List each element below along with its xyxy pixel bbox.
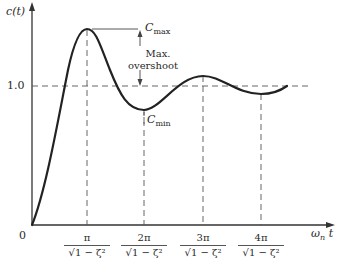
reference-level-label: 1.0 bbox=[7, 80, 25, 91]
y-axis-arrow-icon bbox=[29, 2, 35, 11]
arrow-up-icon bbox=[138, 30, 143, 37]
y-axis-label: c(t) bbox=[6, 6, 25, 17]
x-axis-label: ωn t bbox=[311, 228, 333, 242]
cmin-label: Cmin bbox=[147, 114, 171, 128]
arrow-down-icon bbox=[138, 79, 143, 86]
overshoot-label: Max. overshoot bbox=[128, 48, 178, 72]
x-tick-1: π√1 − ζ² bbox=[64, 233, 110, 258]
x-tick-3: 3π√1 − ζ² bbox=[180, 233, 226, 258]
step-response-plot bbox=[0, 0, 341, 271]
cmax-label: Cmax bbox=[145, 22, 170, 36]
x-tick-4: 4π√1 − ζ² bbox=[238, 233, 284, 258]
x-tick-2: 2π√1 − ζ² bbox=[121, 233, 167, 258]
origin-label: 0 bbox=[19, 230, 26, 241]
